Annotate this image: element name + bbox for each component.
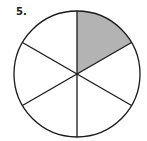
radius-line: [22, 43, 77, 75]
shaded-sector: [77, 11, 132, 74]
radius-line: [77, 74, 132, 106]
radius-line: [22, 74, 77, 106]
fraction-circle-diagram: [0, 0, 147, 141]
